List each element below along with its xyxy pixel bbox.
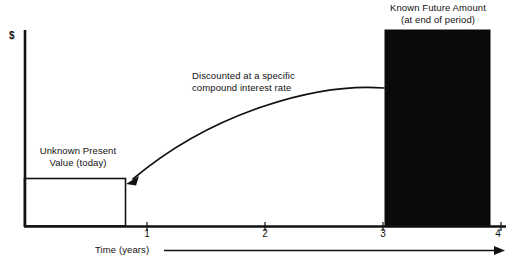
- discount-curve-arrow: [133, 87, 384, 179]
- x-tick-label-1: 1: [137, 228, 157, 240]
- future-amount-bar: [385, 30, 490, 226]
- time-axis-label: Time (years): [95, 244, 149, 256]
- present-value-label: Unknown Present Value (today): [18, 145, 138, 168]
- time-axis-arrowhead: [494, 246, 505, 255]
- time-value-diagram: $ Unknown Present Value (today) Known Fu…: [0, 0, 517, 273]
- y-axis-label: $: [9, 30, 15, 42]
- discount-arrowhead: [126, 176, 139, 186]
- discount-annotation-label: Discounted at a specific compound intere…: [192, 70, 332, 93]
- future-amount-label: Known Future Amount (at end of period): [378, 2, 498, 25]
- x-tick-label-3: 3: [373, 228, 393, 240]
- x-tick-label-2: 2: [255, 228, 275, 240]
- x-tick-label-4: 4: [488, 228, 508, 240]
- present-value-box: [25, 179, 126, 227]
